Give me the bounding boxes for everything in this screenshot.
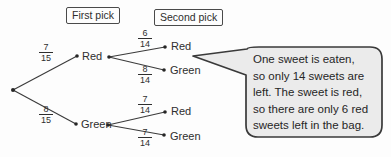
fraction-numerator: 8	[138, 64, 152, 75]
node-dot	[107, 55, 111, 59]
callout-text: One sweet is eaten, so only 14 sweets ar…	[253, 51, 381, 134]
callout-text-line: so there are only 6 red	[253, 101, 381, 118]
node-dot	[162, 68, 166, 72]
probability-fraction-green-green: 7 14	[138, 127, 152, 148]
fraction-denominator: 15	[39, 115, 53, 125]
node-dot	[75, 54, 79, 58]
probability-fraction-first-green: 8 15	[39, 104, 53, 125]
node-dot-root	[11, 88, 15, 92]
probability-tree-diagram: First pick Second pick Red Green Red Gre…	[0, 0, 391, 157]
fraction-numerator: 6	[138, 28, 152, 39]
fraction-numerator: 7	[138, 127, 152, 138]
outcome-label-first-red: Red	[82, 50, 102, 62]
fraction-numerator: 8	[39, 104, 53, 115]
branch-line-green-green	[108, 125, 164, 135]
node-dot	[163, 45, 167, 49]
branch-line-red-red	[109, 47, 165, 57]
branch-line-green-red	[108, 112, 165, 125]
callout-text-line: so only 14 sweets are	[253, 68, 381, 85]
probability-fraction-green-red: 7 14	[138, 94, 152, 115]
outcome-label-green-red: Red	[171, 105, 191, 117]
probability-fraction-red-red: 6 14	[138, 28, 152, 49]
second-pick-header-box: Second pick	[154, 9, 223, 26]
fraction-denominator: 14	[138, 39, 152, 49]
node-dot	[74, 122, 78, 126]
probability-fraction-red-green: 8 14	[138, 64, 152, 85]
fraction-denominator: 15	[39, 53, 53, 63]
callout-text-line: One sweet is eaten,	[253, 51, 381, 68]
fraction-denominator: 14	[138, 105, 152, 115]
outcome-label-green-green: Green	[170, 130, 201, 142]
outcome-label-first-green: Green	[81, 118, 112, 130]
fraction-denominator: 14	[138, 75, 152, 85]
outcome-label-red-green: Green	[170, 64, 201, 76]
first-pick-header-box: First pick	[66, 7, 120, 24]
node-dot	[162, 133, 166, 137]
fraction-numerator: 7	[39, 42, 53, 53]
branch-line-red-green	[109, 57, 164, 70]
callout-text-line: sweets left in the bag.	[253, 117, 381, 134]
fraction-numerator: 7	[138, 94, 152, 105]
second-pick-header-label: Second pick	[160, 11, 217, 23]
node-dot	[163, 110, 167, 114]
callout-text-line: left. The sweet is red,	[253, 84, 381, 101]
outcome-label-red-red: Red	[171, 40, 191, 52]
fraction-denominator: 14	[138, 138, 152, 148]
first-pick-header-label: First pick	[72, 9, 114, 21]
probability-fraction-first-red: 7 15	[39, 42, 53, 63]
